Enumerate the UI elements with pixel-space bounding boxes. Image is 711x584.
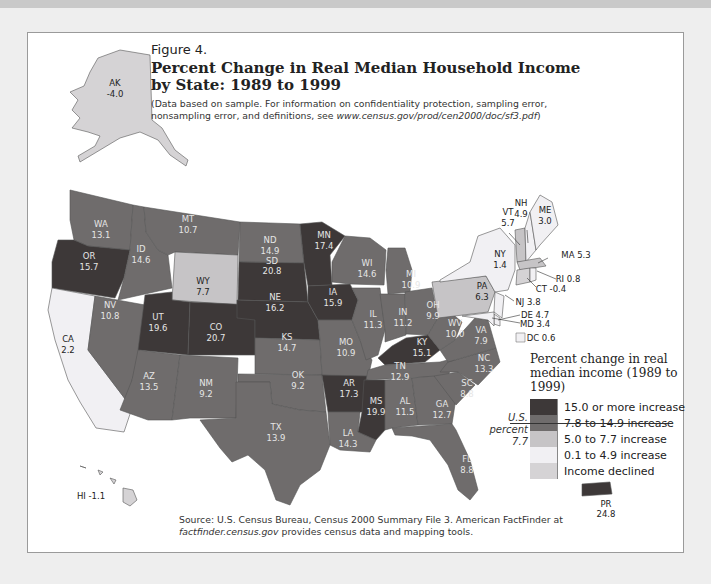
label-ID-value: 14.6 bbox=[132, 255, 151, 265]
label-KS-name: KS bbox=[282, 332, 293, 342]
label-NH-value: 4.9 bbox=[514, 209, 528, 219]
us-percent-value: 7.7 bbox=[472, 436, 528, 448]
legend-label: 0.1 to 4.9 increase bbox=[558, 449, 667, 462]
figure-title: Percent Change in Real Median Household … bbox=[151, 60, 591, 94]
note-url: www.census.gov/prod/cen2000/doc/sf3.pdf bbox=[337, 110, 538, 121]
source-line2: factfinder.census.gov provides census da… bbox=[179, 526, 599, 538]
territory-PR bbox=[582, 482, 612, 496]
label-AR-value: 17.3 bbox=[340, 389, 359, 399]
label-MO-value: 10.9 bbox=[337, 348, 356, 358]
label-ME-value: 3.0 bbox=[538, 216, 552, 226]
label-NM-value: 9.2 bbox=[199, 389, 213, 399]
legend-label: 5.0 to 7.7 increase bbox=[558, 433, 667, 446]
label-MT-name: MT bbox=[182, 214, 195, 224]
label-OK-name: OK bbox=[292, 370, 305, 380]
label-AK-value: -4.0 bbox=[107, 89, 124, 99]
label-CO-name: CO bbox=[210, 322, 223, 332]
legend-swatch bbox=[530, 447, 558, 463]
legend-title: Percent change in real median income (19… bbox=[530, 352, 690, 394]
label-NE-name: NE bbox=[269, 292, 281, 302]
figure-title-line1: Percent Change in Real Median Household … bbox=[151, 60, 591, 77]
legend-item: 0.1 to 4.9 increase bbox=[530, 447, 690, 463]
figure-title-line2: by State: 1989 to 1999 bbox=[151, 77, 591, 94]
label-MI-value: 10.9 bbox=[402, 280, 421, 290]
source-line2-text: provides census data and mapping tools. bbox=[279, 526, 474, 537]
label-OH-value: 9.9 bbox=[426, 311, 440, 321]
label-KY-name: KY bbox=[417, 337, 428, 347]
label-WV-name: WV bbox=[448, 318, 462, 328]
label-PA-name: PA bbox=[477, 281, 488, 291]
source-url[interactable]: factfinder.census.gov bbox=[179, 526, 279, 537]
label-UT-name: UT bbox=[152, 312, 164, 322]
label-ND-name: ND bbox=[264, 235, 277, 245]
state-RI bbox=[530, 268, 536, 282]
label-MT-value: 10.7 bbox=[179, 225, 198, 235]
label-ME-name: ME bbox=[539, 205, 552, 215]
label-OR-name: OR bbox=[83, 251, 96, 261]
label-AK-name: AK bbox=[109, 78, 121, 88]
label-AL-value: 11.5 bbox=[396, 407, 415, 417]
label-NC-name: NC bbox=[478, 353, 490, 363]
label-IL-value: 11.3 bbox=[364, 320, 383, 330]
label-GA-name: GA bbox=[436, 399, 449, 409]
us-percent-rule bbox=[510, 423, 673, 424]
legend-rows: 15.0 or more increase 7.8 to 14.9 increa… bbox=[530, 399, 690, 479]
label-TX-value: 13.9 bbox=[267, 433, 286, 443]
note-close: ) bbox=[537, 110, 541, 121]
label-WI-value: 14.6 bbox=[358, 269, 377, 279]
label-NC-value: 13.3 bbox=[475, 364, 494, 374]
figure-number: Figure 4. bbox=[151, 42, 207, 57]
label-NY-value: 1.4 bbox=[493, 260, 507, 270]
label-PR-name: PR bbox=[600, 499, 611, 509]
label-NH-name: NH bbox=[515, 198, 528, 208]
label-NY-name: NY bbox=[494, 249, 506, 259]
state-NJ bbox=[494, 292, 504, 318]
legend-swatch bbox=[530, 399, 558, 415]
label-IN-name: IN bbox=[399, 307, 408, 317]
label-GA-value: 12.7 bbox=[433, 410, 452, 420]
dc-swatch bbox=[516, 333, 525, 342]
label-TX-name: TX bbox=[269, 422, 281, 432]
label-OR-value: 15.7 bbox=[80, 262, 99, 272]
label-ND-value: 14.9 bbox=[261, 246, 280, 256]
figure-note: (Data based on sample. For information o… bbox=[151, 98, 571, 122]
label-IN-value: 11.2 bbox=[394, 318, 413, 328]
label-MO-name: MO bbox=[339, 337, 353, 347]
label-VA-name: VA bbox=[475, 325, 486, 335]
us-percent-label: U.S. percent 7.7 bbox=[472, 412, 528, 448]
source-note: Source: U.S. Census Bureau, Census 2000 … bbox=[179, 514, 599, 538]
label-AZ-name: AZ bbox=[143, 371, 155, 381]
label-RI: RI 0.8 bbox=[556, 274, 581, 284]
label-UT-value: 19.6 bbox=[149, 323, 168, 333]
label-HI: HI -1.1 bbox=[77, 491, 105, 501]
label-AZ-value: 13.5 bbox=[140, 382, 159, 392]
label-IA-name: IA bbox=[329, 287, 338, 297]
label-DC: DC 0.6 bbox=[527, 333, 556, 343]
label-CT: CT -0.4 bbox=[536, 284, 566, 294]
label-VT-name: VT bbox=[502, 207, 514, 217]
label-AL-name: AL bbox=[400, 396, 411, 406]
label-LA-name: LA bbox=[343, 428, 354, 438]
label-NV-name: NV bbox=[104, 300, 116, 310]
label-CA-value: 2.2 bbox=[61, 345, 75, 355]
label-IA-value: 15.9 bbox=[324, 298, 343, 308]
label-SC-name: SC bbox=[461, 378, 472, 388]
label-WV-value: 10.0 bbox=[446, 329, 465, 339]
label-WY-name: WY bbox=[196, 276, 210, 286]
label-WI-name: WI bbox=[362, 258, 373, 268]
label-MD: MD 3.4 bbox=[520, 319, 550, 329]
label-MS-value: 19.9 bbox=[367, 407, 386, 417]
us-percent-text: U.S. percent bbox=[472, 412, 528, 436]
label-FL-name: FL bbox=[462, 454, 472, 464]
label-TN-value: 12.9 bbox=[391, 372, 410, 382]
label-SC-value: 8.8 bbox=[460, 389, 474, 399]
label-OH-name: OH bbox=[426, 300, 439, 310]
legend: Percent change in real median income (19… bbox=[530, 352, 690, 479]
legend-item: 5.0 to 7.7 increase bbox=[530, 431, 690, 447]
label-SD-name: SD bbox=[266, 256, 278, 266]
legend-swatch bbox=[530, 431, 558, 447]
label-PR-value: 24.8 bbox=[597, 509, 616, 519]
label-FL-value: 8.8 bbox=[460, 465, 474, 475]
label-LA-value: 14.3 bbox=[339, 439, 358, 449]
legend-item: Income declined bbox=[530, 463, 690, 479]
